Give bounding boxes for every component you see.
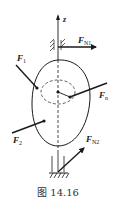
force-fn2-label: FN2: [85, 134, 99, 145]
bottom-support: [49, 156, 69, 178]
force-f2: F2: [12, 119, 46, 146]
force-f2-label: F2: [12, 135, 22, 146]
force-fn1: FN1: [58, 35, 96, 47]
top-support: [50, 39, 65, 51]
z-axis-arrow-icon: [56, 14, 60, 20]
z-axis-label: z: [62, 15, 67, 24]
force-fn-label: Fn: [98, 90, 108, 101]
force-fn: Fn: [58, 83, 108, 101]
mechanics-diagram: z FN1 F1 Fn F2: [0, 0, 116, 202]
force-f1: F1: [16, 53, 39, 90]
figure-caption: 图 14.16: [0, 184, 116, 199]
body-contour: [32, 60, 90, 146]
force-fn2: FN2: [58, 134, 99, 172]
force-f1-label: F1: [16, 53, 26, 64]
force-fn1-label: FN1: [77, 35, 91, 46]
